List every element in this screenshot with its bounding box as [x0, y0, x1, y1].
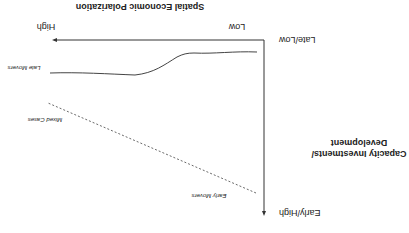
mixed-cases-dashed-line [48, 103, 256, 193]
diagram-stage: Spatial Economic Polarization Low High L… [0, 0, 409, 233]
late-movers-curve [50, 52, 257, 75]
y-axis-title-line2: Development [331, 138, 388, 148]
mixed-cases-label: Mixed Cases [28, 117, 63, 123]
late-movers-label: Late Movers [7, 65, 40, 71]
early-movers-label: Early Movers [191, 193, 226, 199]
y-axis-title-line1: Capacity Investments/ [311, 149, 407, 159]
y-axis-late-low-label: Late/Low [279, 35, 316, 45]
x-axis-arrow-icon [52, 38, 57, 42]
y-axis-arrow-icon [262, 211, 266, 216]
x-axis-low-label: Low [228, 22, 245, 32]
diagram-title: Spatial Economic Polarization [76, 2, 205, 12]
x-axis-high-label: High [37, 22, 56, 32]
diagram-svg: Spatial Economic Polarization Low High L… [0, 0, 409, 233]
y-axis-early-high-label: Early/High [279, 208, 321, 218]
